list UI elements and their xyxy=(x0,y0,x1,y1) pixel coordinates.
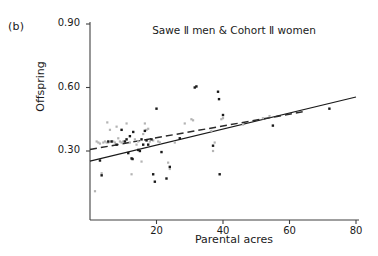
data-point xyxy=(169,168,171,170)
data-point xyxy=(195,85,197,87)
y-tick-label: 0.30 xyxy=(40,144,80,155)
data-point xyxy=(169,166,171,168)
data-point xyxy=(100,174,102,176)
data-point xyxy=(222,114,224,116)
data-point xyxy=(127,152,129,154)
data-point xyxy=(262,117,264,119)
data-point xyxy=(99,142,101,144)
data-point xyxy=(218,98,220,100)
data-point xyxy=(131,158,133,160)
data-point xyxy=(115,143,117,145)
data-point xyxy=(140,138,142,140)
data-point xyxy=(106,121,108,123)
fit-line-men-regression xyxy=(90,97,356,161)
data-point xyxy=(222,117,224,119)
data-point xyxy=(134,138,136,140)
data-point xyxy=(125,122,127,124)
data-point xyxy=(99,159,101,161)
data-point xyxy=(132,131,134,133)
x-tick-label: 20 xyxy=(142,225,172,236)
y-tick-label: 0.90 xyxy=(40,17,80,28)
data-point xyxy=(154,180,156,182)
data-point xyxy=(139,150,141,152)
data-point xyxy=(101,172,103,174)
data-point xyxy=(116,126,118,128)
data-point xyxy=(184,122,186,124)
data-point xyxy=(130,173,132,175)
data-point xyxy=(192,119,194,121)
data-point xyxy=(147,128,149,130)
x-tick-label: 40 xyxy=(208,225,238,236)
x-tick-label: 60 xyxy=(275,225,305,236)
data-point xyxy=(94,190,96,192)
data-point xyxy=(167,162,169,164)
data-point xyxy=(140,160,142,162)
scatter-plot-canvas xyxy=(0,0,378,256)
data-point xyxy=(110,140,112,142)
data-point xyxy=(142,143,144,145)
series-sawe-ii-men xyxy=(99,85,331,183)
data-point xyxy=(135,144,137,146)
data-point xyxy=(107,140,109,142)
data-point xyxy=(242,123,244,125)
data-point xyxy=(149,140,151,142)
data-point xyxy=(218,173,220,175)
data-point xyxy=(144,130,146,132)
data-point xyxy=(147,143,149,145)
data-point xyxy=(217,91,219,93)
data-point xyxy=(124,140,126,142)
data-point xyxy=(272,124,274,126)
data-point xyxy=(212,150,214,152)
data-point xyxy=(268,115,270,117)
data-point xyxy=(129,141,131,143)
data-point xyxy=(214,141,216,143)
data-point xyxy=(125,138,127,140)
data-point xyxy=(152,173,154,175)
data-point xyxy=(159,141,161,143)
x-tick-label: 80 xyxy=(341,225,371,236)
data-point xyxy=(120,129,122,131)
data-point xyxy=(328,107,330,109)
data-point xyxy=(150,138,152,140)
data-point xyxy=(212,145,214,147)
data-point xyxy=(114,141,116,143)
data-point xyxy=(179,137,181,139)
figure-panel: (b) Sawe Ⅱ men & Cohort Ⅱ women Offsprin… xyxy=(0,0,378,256)
data-point xyxy=(174,141,176,143)
y-tick-label: 0.60 xyxy=(40,81,80,92)
data-point xyxy=(145,139,147,141)
data-point xyxy=(155,107,157,109)
data-point xyxy=(210,130,212,132)
data-point xyxy=(117,137,119,139)
data-point xyxy=(129,135,131,137)
data-point xyxy=(137,140,139,142)
data-point xyxy=(142,133,144,135)
data-point xyxy=(144,122,146,124)
data-point xyxy=(165,177,167,179)
data-point xyxy=(109,129,111,131)
data-point xyxy=(160,151,162,153)
